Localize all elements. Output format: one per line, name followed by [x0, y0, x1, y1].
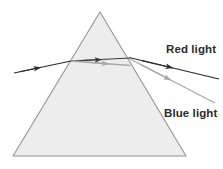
- triangular-prism: [13, 12, 186, 156]
- red-light-label: Red light: [166, 43, 216, 55]
- ray-diagram-canvas: Red light Blue light: [0, 0, 223, 169]
- blue-light-label: Blue light: [164, 107, 217, 119]
- optics-dispersion-figure: Red light Blue light: [0, 0, 223, 169]
- incident-ray-group: [14, 61, 71, 73]
- emergent-red-ray-group: [129, 58, 219, 80]
- incident-ray-arrowhead: [20, 67, 41, 71]
